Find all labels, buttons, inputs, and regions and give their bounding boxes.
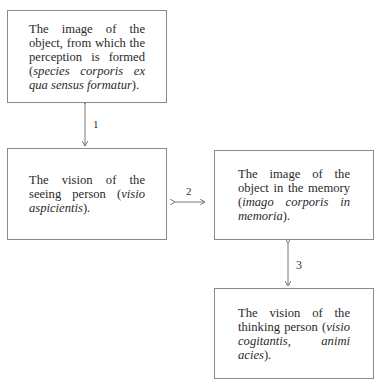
box-memory-image-text: The image of the object in the memory (i…: [238, 167, 350, 223]
box-object-image: The image of the object, from which the …: [7, 10, 167, 103]
box-object-image-text: The image of the object, from which the …: [29, 22, 145, 92]
box-thinking-vision: The vision of the thinking person (visio…: [214, 288, 374, 379]
box-memory-image: The image of the object in the memory (i…: [214, 150, 374, 240]
box-seeing-vision: The vision of the seeing person (visio a…: [7, 148, 167, 240]
box-thinking-vision-text: The vision of the thinking person (visio…: [238, 306, 350, 362]
arrow-3-label: 3: [296, 258, 302, 273]
box-seeing-vision-text: The vision of the seeing person (visio a…: [29, 173, 145, 215]
arrow-1-label: 1: [93, 118, 99, 130]
arrow-2-label: 2: [186, 185, 192, 197]
